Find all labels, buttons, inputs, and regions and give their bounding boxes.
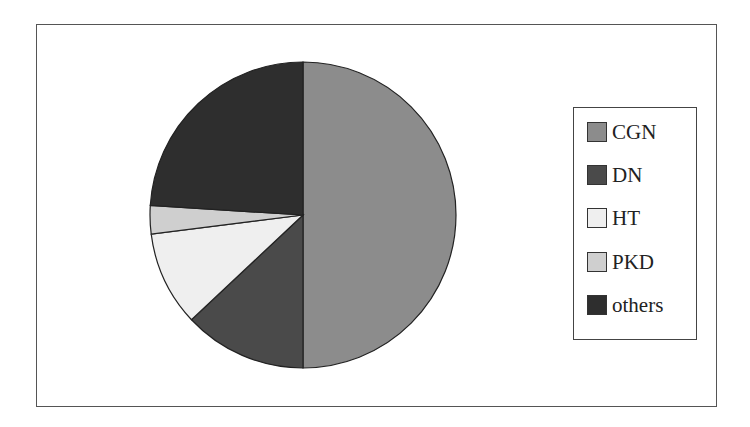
legend-swatch-others: [587, 295, 607, 315]
legend-swatch-cgn: [587, 122, 607, 142]
legend-label: DN: [612, 164, 642, 186]
pie-slice-cgn: [303, 62, 456, 368]
legend-item-dn: DN: [587, 164, 642, 186]
legend-label: CGN: [612, 121, 656, 143]
legend-label: others: [612, 294, 663, 316]
legend-swatch-pkd: [587, 252, 607, 272]
legend-item-cgn: CGN: [587, 121, 656, 143]
legend: CGN DN HT PKD others: [573, 107, 697, 340]
legend-label: PKD: [612, 251, 654, 273]
legend-swatch-ht: [587, 208, 607, 228]
pie-slice-others: [150, 62, 303, 215]
legend-item-others: others: [587, 294, 663, 316]
legend-label: HT: [612, 207, 640, 229]
legend-item-ht: HT: [587, 207, 640, 229]
legend-item-pkd: PKD: [587, 251, 654, 273]
legend-swatch-dn: [587, 165, 607, 185]
